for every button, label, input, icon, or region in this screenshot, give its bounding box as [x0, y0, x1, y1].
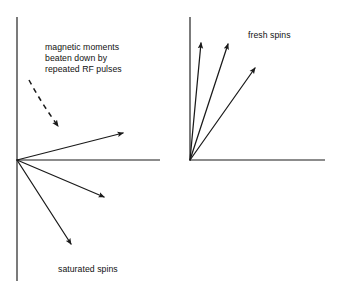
- rf-pulse-annotation-line-3: repeated RF pulses: [45, 64, 122, 74]
- rf-pulse-annotation-line-1: magnetic moments: [45, 42, 120, 52]
- rf-pulse-annotation: magnetic moments beaten down by repeated…: [45, 42, 122, 74]
- dashed-curved-arrow-icon: [29, 80, 58, 126]
- saturated-spin-vector-2: [17, 160, 104, 197]
- rf-pulse-annotation-line-2: beaten down by: [45, 53, 108, 63]
- saturated-spins-panel: magnetic moments beaten down by repeated…: [17, 17, 160, 281]
- diagram-figure: magnetic moments beaten down by repeated…: [0, 0, 339, 296]
- fresh-spins-panel: fresh spins: [190, 17, 325, 160]
- saturated-spins-caption: saturated spins: [58, 264, 118, 274]
- fresh-spins-caption: fresh spins: [248, 30, 291, 40]
- fresh-spin-vector-3: [190, 68, 255, 160]
- spin-diagram-canvas: magnetic moments beaten down by repeated…: [0, 0, 339, 296]
- saturated-spin-vector-1: [17, 133, 123, 160]
- saturated-spin-vector-3: [17, 160, 71, 244]
